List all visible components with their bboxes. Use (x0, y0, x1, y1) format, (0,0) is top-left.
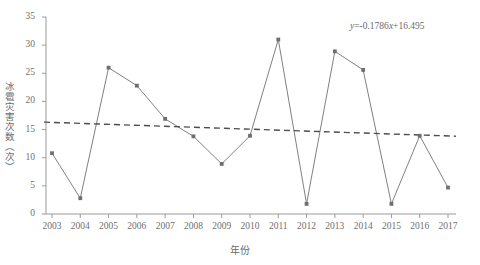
data-point-marker (390, 202, 394, 206)
data-point-marker (248, 134, 252, 138)
y-axis-ticks (42, 17, 46, 214)
data-point-marker (78, 196, 82, 200)
data-point-marker (50, 151, 54, 155)
data-point-marker (361, 68, 365, 72)
y-axis-tick-label: 10 (13, 152, 35, 162)
y-axis-tick-label: 20 (13, 95, 35, 105)
x-axis-tick-label: 2017 (431, 221, 465, 231)
data-point-marker (107, 66, 111, 70)
data-point-marker (276, 38, 280, 42)
hail-frequency-line-chart: 冰雹灾害次数（次） 年份 y=-0.1786x+16.495 051015202… (0, 0, 480, 265)
y-axis-tick-label: 15 (13, 124, 35, 134)
y-axis-tick-label: 25 (13, 67, 35, 77)
y-axis-tick-label: 0 (13, 208, 35, 218)
data-point-markers (50, 38, 450, 206)
data-point-marker (220, 162, 224, 166)
y-axis-tick-label: 5 (13, 180, 35, 190)
y-axis-tick-label: 35 (13, 11, 35, 21)
data-point-marker (446, 186, 450, 190)
x-axis-ticks (52, 214, 448, 218)
data-point-marker (305, 202, 309, 206)
axes (46, 17, 456, 214)
data-point-marker (418, 134, 422, 138)
data-point-marker (333, 49, 337, 53)
data-series-line (52, 40, 448, 204)
y-axis-tick-label: 30 (13, 39, 35, 49)
data-point-marker (135, 84, 139, 88)
data-point-marker (163, 117, 167, 121)
data-point-marker (192, 134, 196, 138)
